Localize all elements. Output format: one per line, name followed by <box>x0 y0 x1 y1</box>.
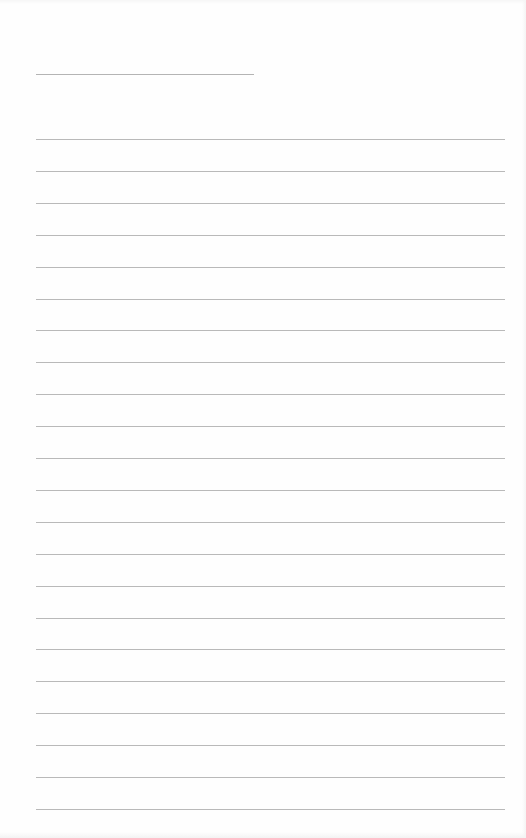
ruled-line <box>36 745 505 746</box>
ruled-line <box>36 522 505 523</box>
ruled-line <box>36 139 505 140</box>
ruled-line <box>36 458 505 459</box>
notebook-page <box>0 0 526 838</box>
ruled-line <box>36 777 505 778</box>
page-edge-right <box>522 0 526 838</box>
ruled-line <box>36 618 505 619</box>
ruled-line <box>36 362 505 363</box>
ruled-line <box>36 649 505 650</box>
ruled-line <box>36 586 505 587</box>
ruled-line <box>36 394 505 395</box>
ruled-line <box>36 426 505 427</box>
ruled-line <box>36 713 505 714</box>
ruled-line <box>36 681 505 682</box>
ruled-line <box>36 235 505 236</box>
ruled-line <box>36 171 505 172</box>
ruled-lines <box>0 0 526 838</box>
ruled-line <box>36 809 505 810</box>
ruled-line <box>36 554 505 555</box>
ruled-line <box>36 330 505 331</box>
ruled-line <box>36 490 505 491</box>
ruled-line <box>36 299 505 300</box>
page-edge-bottom <box>0 832 526 838</box>
ruled-line <box>36 203 505 204</box>
ruled-line <box>36 267 505 268</box>
